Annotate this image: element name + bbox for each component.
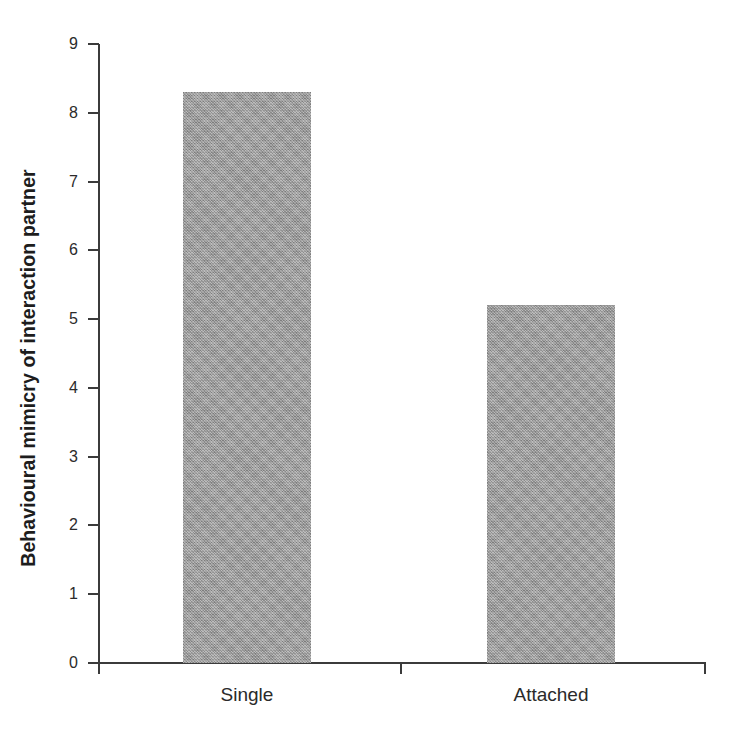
- x-axis-category-label: Attached: [451, 684, 651, 707]
- y-axis-tick: [88, 43, 99, 45]
- y-axis-tick-label-text: 6: [69, 241, 78, 259]
- y-axis-tick-label-text: 3: [69, 448, 78, 466]
- bar-chart: Behavioural mimicry of interaction partn…: [0, 0, 740, 736]
- y-axis-tick-label: 9: [0, 34, 78, 54]
- y-axis-tick: [88, 181, 99, 183]
- y-axis-tick-label-text: 0: [69, 654, 78, 672]
- y-axis-tick-label-text: 5: [69, 310, 78, 328]
- y-axis-tick: [88, 387, 99, 389]
- y-axis-tick: [88, 112, 99, 114]
- bar: [487, 305, 615, 663]
- y-axis-tick-label-text: 2: [69, 516, 78, 534]
- y-axis-tick-label: 2: [0, 515, 78, 535]
- y-axis-tick-label: 6: [0, 240, 78, 260]
- y-axis-tick-label-text: 7: [69, 173, 78, 191]
- y-axis-tick-label: 8: [0, 103, 78, 123]
- x-axis-tick-start: [98, 663, 100, 674]
- y-axis-tick-label-text: 4: [69, 379, 78, 397]
- y-axis-tick: [88, 524, 99, 526]
- y-axis-tick-label: 0: [0, 653, 78, 673]
- y-axis-tick: [88, 593, 99, 595]
- y-axis-tick-label-text: 9: [69, 35, 78, 53]
- x-axis-category-label: Single: [147, 684, 347, 707]
- y-axis-tick-label-text: 1: [69, 585, 78, 603]
- y-axis-tick: [88, 318, 99, 320]
- y-axis-line: [98, 44, 100, 664]
- x-axis-tick-end: [704, 663, 706, 674]
- y-axis-tick: [88, 456, 99, 458]
- y-axis-tick-label: 3: [0, 447, 78, 467]
- y-axis-tick-label-text: 8: [69, 104, 78, 122]
- bar: [183, 92, 311, 663]
- y-axis-tick-label: 5: [0, 309, 78, 329]
- y-axis-tick-label: 1: [0, 584, 78, 604]
- x-axis-tick-separator: [400, 663, 402, 674]
- y-axis-tick: [88, 249, 99, 251]
- y-axis-tick-label: 4: [0, 378, 78, 398]
- y-axis-tick-label: 7: [0, 172, 78, 192]
